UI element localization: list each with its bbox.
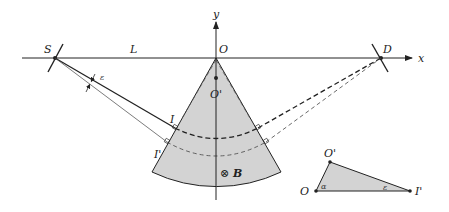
- magnetic-field-symbol: ⊗: [220, 167, 229, 180]
- epsilon-marker-arrow-2: [86, 86, 89, 92]
- epsilon-label: ε: [100, 73, 104, 82]
- triangle-label-O: O: [300, 185, 309, 198]
- epsilon-marker-arrow-1: [92, 74, 95, 80]
- triangle-shape: [316, 162, 410, 191]
- triangle-angle-epsilon: ε: [383, 183, 387, 192]
- inset-triangle: O O' I' α ε: [300, 147, 422, 198]
- triangle-vertex-O-prime: [328, 160, 332, 164]
- x-axis-label: x: [418, 52, 425, 65]
- incidence-prime-label: I': [153, 148, 161, 161]
- triangle-vertex-O: [314, 189, 318, 193]
- origin-label: O: [219, 43, 228, 56]
- beam-prime-outgoing: [266, 58, 381, 142]
- distance-label: L: [129, 43, 137, 56]
- incidence-label: I: [169, 113, 175, 126]
- triangle-label-O-prime: O': [324, 147, 336, 160]
- y-axis-label: y: [212, 8, 220, 21]
- triangle-vertex-I-prime: [408, 189, 412, 193]
- center-prime-point: [214, 76, 218, 80]
- magnetic-field-label: B: [232, 167, 242, 180]
- center-prime-label: O': [210, 88, 222, 101]
- beam-main-incoming: [55, 58, 175, 128]
- detector-label: D: [382, 43, 392, 56]
- beam-main-outgoing: [258, 58, 381, 128]
- diagram-canvas: x y O O' S D L ε I I' ⊗ B O O' I' α: [0, 0, 449, 212]
- triangle-angle-alpha: α: [321, 182, 327, 191]
- triangle-label-I-prime: I': [414, 185, 422, 198]
- beam-prime-incoming: [55, 58, 167, 142]
- source-label: S: [44, 43, 52, 56]
